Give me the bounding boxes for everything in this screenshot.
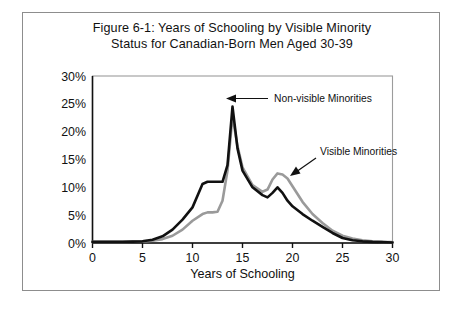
figure-container: Figure 6-1: Years of Schooling by Visibl… xyxy=(0,0,464,309)
y-tick-label: 10% xyxy=(61,181,86,195)
annotation-non-visible-minorities: Non-visible Minorities xyxy=(226,93,372,104)
y-tick-label: 5% xyxy=(68,209,86,223)
x-tick-label: 30 xyxy=(386,251,400,265)
x-tick-label: 0 xyxy=(89,251,96,265)
x-tick-label: 10 xyxy=(186,251,200,265)
y-tick-label: 30% xyxy=(61,70,86,84)
annotation-leader-line-2 xyxy=(296,158,316,172)
y-axis-tick-labels: 0%5%10%15%20%25%30% xyxy=(61,70,86,251)
arrow-down-left-icon xyxy=(290,167,301,177)
series-line-visible-minorities xyxy=(93,116,393,242)
annotation-label-non-visible-minorities: Non-visible Minorities xyxy=(274,93,372,104)
x-tick-label: 20 xyxy=(286,251,300,265)
y-tick-label: 0% xyxy=(68,237,86,251)
x-axis-title: Years of Schooling xyxy=(190,267,295,281)
series-line-non-visible-minorities xyxy=(93,107,393,243)
x-tick-label: 15 xyxy=(236,251,250,265)
x-tick-label: 5 xyxy=(139,251,146,265)
annotation-visible-minorities: Visible Minorities xyxy=(290,146,397,176)
x-axis-tick-labels: 051015202530 xyxy=(89,243,399,265)
x-tick-label: 25 xyxy=(336,251,350,265)
y-tick-label: 20% xyxy=(61,125,86,139)
annotation-label-visible-minorities: Visible Minorities xyxy=(320,146,397,157)
arrow-left-icon xyxy=(226,95,236,103)
data-series-group xyxy=(93,107,393,243)
y-tick-label: 25% xyxy=(61,97,86,111)
y-tick-label: 15% xyxy=(61,153,86,167)
chart-plot-area: 0%5%10%15%20%25%30% 051015202530 Years o… xyxy=(0,0,464,309)
